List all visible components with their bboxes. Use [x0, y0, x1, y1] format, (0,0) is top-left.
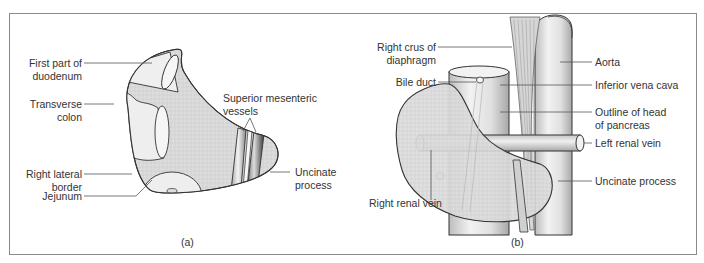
label-outline-head-pancreas: Outline of head of pancreas	[595, 106, 666, 131]
label-line: Outline of head	[595, 106, 666, 119]
label-left-renal-vein: Left renal vein	[595, 137, 661, 150]
label-line: Right lateral	[10, 168, 82, 181]
label-line: of pancreas	[595, 119, 666, 132]
label-line: Right crus of	[356, 41, 436, 54]
label-aorta: Aorta	[595, 56, 620, 69]
label-line: Transverse	[10, 98, 82, 111]
label-inferior-vena-cava: Inferior vena cava	[595, 79, 678, 92]
label-jejunum: Jejunum	[10, 190, 82, 203]
label-line: First part of	[10, 57, 82, 70]
label-bile-duct: Bile duct	[356, 76, 436, 89]
label-line: duodenum	[10, 70, 82, 83]
label-uncinate-process-b: Uncinate process	[595, 175, 676, 188]
panel-a-art	[84, 49, 290, 220]
label-transverse-colon: Transverse colon	[10, 98, 82, 123]
label-line: process	[295, 179, 336, 192]
label-line: vessels	[223, 105, 317, 118]
label-line: Uncinate	[295, 166, 336, 179]
caption-b: (b)	[511, 236, 524, 248]
label-uncinate-process-a: Uncinate process	[295, 166, 336, 191]
label-right-renal-vein: Right renal vein	[369, 197, 442, 210]
label-superior-mesenteric-vessels: Superior mesenteric vessels	[223, 92, 317, 117]
label-line: colon	[10, 111, 82, 124]
diagram-art	[0, 0, 704, 263]
label-first-part-duodenum: First part of duodenum	[10, 57, 82, 82]
label-right-crus: Right crus of diaphragm	[356, 41, 436, 66]
caption-a: (a)	[181, 236, 194, 248]
label-line: Superior mesenteric	[223, 92, 317, 105]
label-line: diaphragm	[356, 54, 436, 67]
